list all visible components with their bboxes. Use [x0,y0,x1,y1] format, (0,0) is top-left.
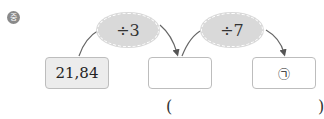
answer-open-paren: ( [166,97,172,116]
operation-divide-7: ÷7 [201,13,263,47]
answer-close-paren: ) [318,97,324,116]
result-box: ㉠ [252,57,316,89]
operation-divide-3: ÷3 [97,13,159,47]
start-value-box: 21,84 [45,57,109,89]
middle-answer-box[interactable] [148,57,212,89]
